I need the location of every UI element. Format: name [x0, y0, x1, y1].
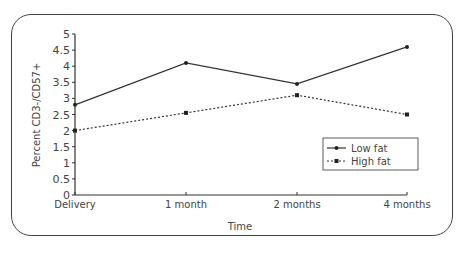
y-tick-label: 2.5	[53, 109, 71, 122]
x-tick-label: Delivery	[54, 199, 96, 210]
x-tick-label: 4 months	[383, 199, 430, 210]
high-fat-marker-icon	[335, 159, 339, 163]
y-tick-label: 1.5	[53, 141, 71, 154]
y-axis-label: Percent CD3-/CD57+	[31, 63, 42, 168]
series-lines	[73, 45, 409, 133]
legend-high-fat: High fat	[351, 156, 391, 167]
x-tick-label: 1 month	[165, 199, 207, 210]
x-axis-label: Time	[227, 221, 252, 232]
line-chart: 00.511.522.533.544.55 Delivery1 month2 m…	[0, 0, 462, 259]
x-tick-label: 2 months	[273, 199, 320, 210]
y-tick-label: 0.5	[53, 173, 71, 186]
legend-low-fat: Low fat	[351, 143, 388, 154]
low-fat-marker-icon	[335, 146, 339, 150]
y-tick-label: 2	[63, 125, 70, 138]
y-tick-label: 4	[63, 60, 70, 73]
legend: Low fat High fat	[323, 138, 418, 170]
y-axis: 00.511.522.533.544.55	[53, 28, 76, 202]
y-tick-label: 1	[63, 157, 70, 170]
y-tick-label: 3	[63, 92, 70, 105]
y-tick-label: 5	[63, 28, 70, 41]
x-axis: Delivery1 month2 months4 months	[54, 192, 430, 210]
y-tick-label: 3.5	[53, 76, 71, 89]
y-tick-label: 4.5	[53, 44, 71, 57]
